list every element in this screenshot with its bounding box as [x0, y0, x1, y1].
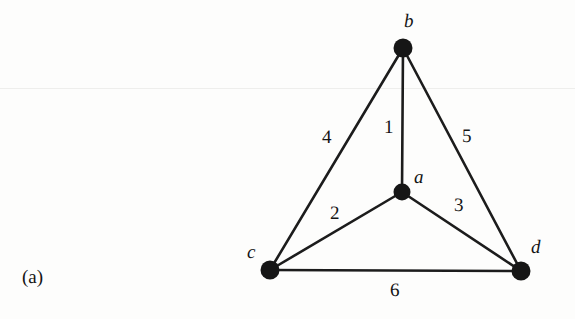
node-label-c: c	[247, 243, 255, 262]
edge-weight-label-3: 3	[454, 196, 464, 215]
figure-container: 123456abcd (a)	[0, 0, 575, 319]
graph-canvas	[0, 0, 575, 319]
graph-node-a	[394, 184, 411, 201]
graph-node-c	[261, 261, 280, 280]
graph-edge-cd	[270, 270, 521, 271]
figure-caption: (a)	[22, 268, 43, 287]
node-label-a: a	[414, 168, 424, 187]
graph-node-d	[512, 262, 531, 281]
edge-weight-label-2: 2	[330, 204, 340, 223]
graph-node-b	[394, 39, 413, 58]
edges-group	[270, 48, 521, 271]
edge-weight-label-5: 5	[462, 127, 472, 146]
node-label-d: d	[531, 238, 541, 257]
nodes-group	[261, 39, 531, 281]
graph-edge-ba	[402, 48, 403, 192]
edge-weight-label-6: 6	[390, 281, 400, 300]
graph-edge-bd	[403, 48, 521, 271]
graph-edge-bc	[270, 48, 403, 270]
edge-weight-label-4: 4	[322, 128, 332, 147]
edge-weight-label-1: 1	[384, 118, 394, 137]
node-label-b: b	[404, 12, 414, 31]
